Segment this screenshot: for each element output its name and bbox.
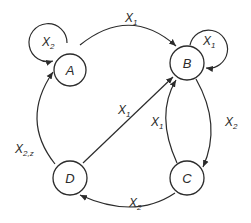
edge-b-c bbox=[196, 79, 211, 167]
node-c: C bbox=[170, 161, 204, 195]
node-c-label: C bbox=[182, 171, 192, 186]
label-edge-d-a: X2,z bbox=[14, 142, 34, 158]
node-b: B bbox=[170, 46, 204, 80]
edge-d-b bbox=[83, 77, 173, 163]
node-a: A bbox=[54, 54, 86, 86]
node-d-label: D bbox=[65, 171, 74, 186]
label-edge-c-d: X2 bbox=[128, 196, 142, 212]
label-edge-a-a: X2 bbox=[41, 35, 55, 51]
label-edge-d-b: X1 bbox=[117, 103, 130, 119]
label-edge-b-b: X1 bbox=[202, 34, 215, 50]
edge-c-b bbox=[166, 80, 177, 163]
node-a-label: A bbox=[65, 63, 75, 78]
label-edge-c-b: X1 bbox=[150, 115, 163, 131]
edge-a-b bbox=[80, 25, 176, 46]
state-diagram: A B C D X2 X1 X1 X2,z X1 X1 X2 X2 bbox=[0, 0, 251, 223]
edge-d-a bbox=[37, 72, 55, 164]
edge-c-d bbox=[80, 193, 175, 207]
node-b-label: B bbox=[183, 56, 192, 71]
label-edge-a-b: X1 bbox=[124, 11, 137, 27]
node-d: D bbox=[53, 161, 87, 195]
label-edge-b-c: X2 bbox=[224, 115, 238, 131]
